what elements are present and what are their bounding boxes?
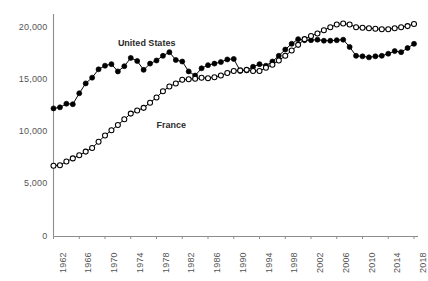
y-tick-label: 10,000 <box>19 126 48 136</box>
data-point-open <box>96 139 101 144</box>
data-point-open <box>315 31 320 36</box>
data-point-open <box>283 53 288 58</box>
data-point-open <box>373 26 378 31</box>
data-point-open <box>328 25 333 30</box>
data-point-filled <box>405 45 410 50</box>
data-point-open <box>154 95 159 100</box>
data-point-open <box>70 156 75 161</box>
data-point-open <box>83 149 88 154</box>
data-point-filled <box>96 67 101 72</box>
x-tick-label: 2006 <box>341 252 351 273</box>
data-point-filled <box>373 54 378 59</box>
data-point-open <box>296 42 301 47</box>
data-point-filled <box>57 105 62 110</box>
data-point-filled <box>412 41 417 46</box>
data-point-open <box>225 70 230 75</box>
data-point-open <box>321 28 326 33</box>
data-point-open <box>289 48 294 53</box>
data-point-open <box>238 68 243 73</box>
series-label-united-states: United States <box>118 38 176 48</box>
x-tick-label: 2014 <box>392 252 402 273</box>
data-point-filled <box>289 41 294 46</box>
data-point-filled <box>186 69 191 74</box>
x-tick-label: 1978 <box>161 252 171 273</box>
data-point-filled <box>218 60 223 65</box>
data-point-open <box>122 117 127 122</box>
data-point-open <box>231 68 236 73</box>
x-tick-label: 1966 <box>83 252 93 273</box>
data-point-open <box>218 73 223 78</box>
data-point-open <box>347 22 352 27</box>
data-point-filled <box>321 38 326 43</box>
data-point-open <box>167 84 172 89</box>
data-point-filled <box>334 38 339 43</box>
data-point-filled <box>257 62 262 67</box>
data-point-filled <box>366 55 371 60</box>
series-france <box>51 21 417 168</box>
data-point-open <box>263 65 268 70</box>
data-point-filled <box>122 64 127 69</box>
data-point-filled <box>103 63 108 68</box>
data-point-filled <box>83 81 88 86</box>
data-point-filled <box>109 62 114 67</box>
data-point-filled <box>199 66 204 71</box>
data-point-open <box>77 153 82 158</box>
data-point-open <box>386 27 391 32</box>
data-point-open <box>180 77 185 82</box>
data-point-open <box>257 68 262 73</box>
data-point-filled <box>212 61 217 66</box>
data-point-open <box>199 75 204 80</box>
x-tick-label: 1962 <box>58 252 68 273</box>
data-point-filled <box>341 37 346 42</box>
data-point-open <box>103 133 108 138</box>
data-point-filled <box>148 61 153 66</box>
x-tick-label: 2018 <box>418 252 428 273</box>
data-point-open <box>135 108 140 113</box>
data-point-filled <box>206 63 211 68</box>
data-point-filled <box>180 59 185 64</box>
data-point-filled <box>167 50 172 55</box>
x-tick-label: 1982 <box>186 252 196 273</box>
data-point-filled <box>231 56 236 61</box>
data-point-open <box>379 27 384 32</box>
x-tick-label: 2002 <box>315 252 325 273</box>
data-point-open <box>309 34 314 39</box>
data-point-open <box>405 24 410 29</box>
data-point-filled <box>115 69 120 74</box>
data-point-filled <box>160 53 165 58</box>
x-tick-label: 1990 <box>238 252 248 273</box>
data-point-open <box>366 26 371 31</box>
data-point-open <box>160 89 165 94</box>
data-point-open <box>354 25 359 30</box>
data-point-filled <box>70 102 75 107</box>
data-point-open <box>206 76 211 81</box>
series-label-france: France <box>157 120 187 130</box>
data-point-open <box>148 100 153 105</box>
data-point-open <box>399 25 404 30</box>
data-point-filled <box>392 49 397 54</box>
data-point-filled <box>328 38 333 43</box>
y-tick-label: 0 <box>42 231 47 241</box>
data-point-open <box>109 128 114 133</box>
data-point-filled <box>379 53 384 58</box>
data-point-open <box>251 68 256 73</box>
data-point-filled <box>399 50 404 55</box>
data-point-filled <box>347 44 352 49</box>
data-point-open <box>392 26 397 31</box>
data-point-open <box>193 76 198 81</box>
data-point-filled <box>51 106 56 111</box>
x-tick-label: 1998 <box>289 252 299 273</box>
data-point-filled <box>173 57 178 62</box>
data-point-open <box>173 81 178 86</box>
data-point-open <box>341 21 346 26</box>
data-point-open <box>276 58 281 63</box>
x-tick-label: 1974 <box>135 252 145 273</box>
x-tick-label: 1970 <box>109 252 119 273</box>
data-point-filled <box>77 91 82 96</box>
data-point-filled <box>225 57 230 62</box>
data-point-filled <box>283 47 288 52</box>
data-point-open <box>212 75 217 80</box>
x-tick-label: 1994 <box>264 252 274 273</box>
